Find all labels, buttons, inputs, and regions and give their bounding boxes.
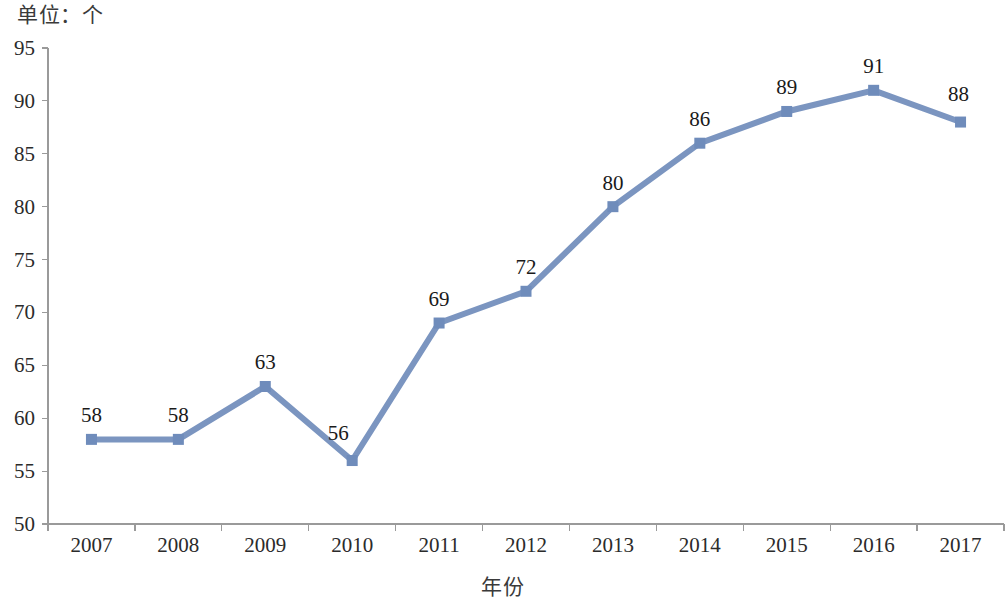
x-tick-label: 2009 — [244, 533, 286, 557]
data-point-label: 86 — [689, 107, 710, 131]
plot-area: 95908580757065605550 2007200820092010201… — [0, 0, 1006, 602]
data-marker — [694, 138, 705, 149]
data-point-label: 91 — [863, 54, 884, 78]
data-marker — [955, 117, 966, 128]
data-point-label: 88 — [948, 82, 969, 106]
x-tick-label: 2014 — [679, 533, 722, 557]
y-tick-label: 55 — [14, 459, 35, 483]
y-tick-label: 80 — [14, 195, 35, 219]
data-point-label: 63 — [255, 350, 276, 374]
x-axis-title: 年份 — [0, 570, 1006, 600]
data-point-labels: 5858635669728086899188 — [81, 54, 969, 444]
data-marker — [347, 455, 358, 466]
x-tick-label: 2017 — [940, 533, 982, 557]
x-tick-label: 2016 — [853, 533, 895, 557]
x-tick-label: 2013 — [592, 533, 634, 557]
data-point-label: 89 — [776, 75, 797, 99]
data-point-label: 56 — [328, 421, 349, 445]
x-tick-label: 2010 — [331, 533, 373, 557]
data-marker — [173, 434, 184, 445]
data-marker — [434, 318, 445, 329]
y-tick-label: 60 — [14, 406, 35, 430]
y-axis: 95908580757065605550 — [14, 36, 48, 536]
data-marker — [607, 201, 618, 212]
x-tick-label: 2015 — [766, 533, 808, 557]
x-tick-label: 2012 — [505, 533, 547, 557]
x-tick-label: 2008 — [157, 533, 199, 557]
y-tick-label: 90 — [14, 89, 35, 113]
line-chart-figure: 单位：个 95908580757065605550 20072008200920… — [0, 0, 1006, 602]
y-tick-label: 75 — [14, 248, 35, 272]
data-marker — [86, 434, 97, 445]
data-point-label: 69 — [429, 287, 450, 311]
data-point-label: 58 — [168, 403, 189, 427]
data-point-label: 72 — [516, 255, 537, 279]
data-marker — [260, 381, 271, 392]
x-tick-label: 2011 — [418, 533, 459, 557]
y-tick-label: 95 — [14, 36, 35, 60]
y-tick-label: 65 — [14, 353, 35, 377]
y-tick-label: 70 — [14, 300, 35, 324]
data-marker — [868, 85, 879, 96]
y-tick-label: 50 — [14, 512, 35, 536]
x-axis: 2007200820092010201120122013201420152016… — [48, 524, 1004, 557]
x-tick-label: 2007 — [70, 533, 112, 557]
data-marker — [521, 286, 532, 297]
data-point-label: 58 — [81, 403, 102, 427]
y-tick-label: 85 — [14, 142, 35, 166]
data-point-label: 80 — [602, 171, 623, 195]
data-marker — [781, 106, 792, 117]
